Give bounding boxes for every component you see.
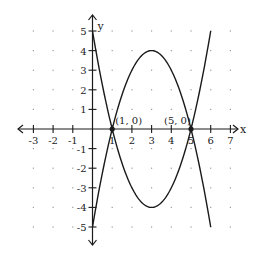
- grid-dot: [151, 109, 152, 110]
- y-tick-label: 5: [80, 26, 86, 37]
- grid-dot: [171, 226, 172, 227]
- grid-dot: [151, 89, 152, 90]
- grid-dot: [131, 30, 132, 31]
- grid-dot: [72, 70, 73, 71]
- grid-dot: [112, 168, 113, 169]
- grid-dot: [33, 148, 34, 149]
- x-axis-label: x: [240, 123, 247, 136]
- grid-dot: [33, 89, 34, 90]
- grid-dot: [53, 207, 54, 208]
- grid-dot: [33, 70, 34, 71]
- y-tick-label: 3: [80, 65, 86, 76]
- y-tick-label: 2: [80, 85, 86, 96]
- grid-dot: [72, 30, 73, 31]
- grid-dot: [171, 207, 172, 208]
- grid-dot: [112, 30, 113, 31]
- grid-dot: [33, 109, 34, 110]
- grid-dot: [230, 89, 231, 90]
- intercept-point: [110, 126, 115, 131]
- graph: -3-2-11234567-5-4-3-2-112345 x y (1, 0) …: [0, 0, 256, 255]
- grid-dot: [72, 109, 73, 110]
- axes: [18, 15, 238, 245]
- grid-dot: [190, 109, 191, 110]
- grid-dot: [190, 30, 191, 31]
- grid-dot: [190, 148, 191, 149]
- grid-dot: [190, 187, 191, 188]
- grid-dot: [190, 226, 191, 227]
- grid-dot: [151, 148, 152, 149]
- grid-dot: [33, 50, 34, 51]
- y-tick-label: 1: [80, 104, 86, 115]
- grid-dot: [131, 207, 132, 208]
- x-tick-label: 4: [168, 135, 174, 146]
- grid-dot: [112, 187, 113, 188]
- grid-dot: [112, 109, 113, 110]
- y-tick-label: -1: [77, 144, 87, 155]
- grid-dot: [230, 207, 231, 208]
- grid-dot: [33, 168, 34, 169]
- grid-dot: [190, 207, 191, 208]
- grid-dot: [171, 168, 172, 169]
- grid-dot: [53, 168, 54, 169]
- grid-dot: [230, 70, 231, 71]
- y-tick-label: -5: [77, 222, 87, 233]
- y-tick-label: -2: [77, 163, 87, 174]
- grid-dot: [72, 89, 73, 90]
- grid-dot: [171, 50, 172, 51]
- grid-dot: [171, 89, 172, 90]
- coordinate-plane: -3-2-11234567-5-4-3-2-112345 x y (1, 0) …: [0, 0, 256, 255]
- grid-dot: [53, 109, 54, 110]
- grid-dot: [33, 226, 34, 227]
- y-tick-label: 4: [80, 46, 86, 57]
- grid-dot: [53, 30, 54, 31]
- grid-dot: [131, 226, 132, 227]
- grid-dot: [33, 187, 34, 188]
- grid-dot: [210, 168, 211, 169]
- grid-dot: [171, 109, 172, 110]
- grid-dot: [190, 89, 191, 90]
- point-label-1-0: (1, 0): [115, 115, 142, 126]
- grid-dot: [33, 30, 34, 31]
- grid-dot: [131, 168, 132, 169]
- x-tick-label: -3: [29, 135, 39, 146]
- upward-parabola-curve: [93, 31, 211, 207]
- grid-dot: [151, 70, 152, 71]
- grid-dot: [131, 148, 132, 149]
- grid-dot: [190, 168, 191, 169]
- grid-dot: [131, 109, 132, 110]
- grid-dot: [112, 50, 113, 51]
- grid-dot: [151, 226, 152, 227]
- grid-dot: [210, 89, 211, 90]
- grid-dot: [72, 207, 73, 208]
- x-tick-label: -2: [48, 135, 58, 146]
- grid-dot: [53, 50, 54, 51]
- grid-dot: [112, 70, 113, 71]
- grid-dot: [171, 30, 172, 31]
- x-tick-label: 7: [227, 135, 233, 146]
- grid-dot: [53, 226, 54, 227]
- grid-dot: [151, 168, 152, 169]
- grid-dot: [210, 109, 211, 110]
- grid-dot: [72, 187, 73, 188]
- grid-dot: [53, 187, 54, 188]
- grid-dot: [210, 207, 211, 208]
- grid-dot: [112, 226, 113, 227]
- grid-dot: [53, 148, 54, 149]
- x-tick-label: 3: [148, 135, 154, 146]
- grid-dot: [72, 168, 73, 169]
- grid-dot: [151, 30, 152, 31]
- grid-dot: [210, 70, 211, 71]
- grid-dot: [53, 89, 54, 90]
- grid-dot: [210, 148, 211, 149]
- grid-dot: [210, 50, 211, 51]
- grid-dot: [53, 70, 54, 71]
- intercept-point: [188, 126, 193, 131]
- grid-dot: [72, 50, 73, 51]
- y-axis-label: y: [97, 20, 105, 33]
- grid-dot: [112, 207, 113, 208]
- grid-dot: [72, 148, 73, 149]
- grid-dot: [131, 50, 132, 51]
- grid-dot: [33, 207, 34, 208]
- grid-dot: [230, 30, 231, 31]
- grid-dot: [210, 187, 211, 188]
